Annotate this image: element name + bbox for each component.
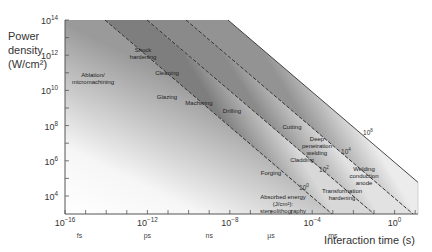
time-unit-labels: fspsnsµsms (77, 232, 338, 240)
y-axis-title-line1: Power (8, 30, 40, 42)
y-axis-title-line3: (W/cm²) (8, 58, 47, 70)
x-tick-label: 10−12 (137, 216, 158, 228)
process-label: Drilling (223, 108, 241, 114)
chart: 101410121010108106104 10−1610−1210−810−4… (0, 0, 432, 252)
x-tick-label: 10−8 (221, 216, 239, 228)
time-unit-label: µs (267, 232, 275, 240)
y-tick-label: 106 (44, 155, 58, 167)
process-label: Forging (261, 170, 281, 176)
y-tick-label: 1014 (41, 14, 59, 26)
time-unit-label: ns (205, 232, 213, 239)
process-label: Cladding (290, 157, 314, 163)
y-tick-label: 1010 (41, 84, 59, 96)
y-tick-label: 108 (44, 120, 58, 132)
y-axis-title-line2: density (8, 44, 43, 56)
time-unit-label: ps (144, 232, 152, 240)
x-tick-label: 100 (388, 216, 402, 228)
y-tick-label: 104 (44, 190, 58, 202)
process-label: Machining (185, 100, 212, 106)
energy-line-label: 108 (363, 128, 373, 136)
x-axis-title: Interaction time (s) (324, 234, 415, 246)
process-label: Glazing (157, 94, 177, 100)
process-label: Cleaning (155, 70, 179, 76)
x-tick-label: 10−4 (304, 216, 322, 228)
time-unit-label: fs (77, 232, 83, 239)
process-label: Cutting (282, 124, 301, 130)
x-tick-label: 10−16 (55, 216, 76, 228)
